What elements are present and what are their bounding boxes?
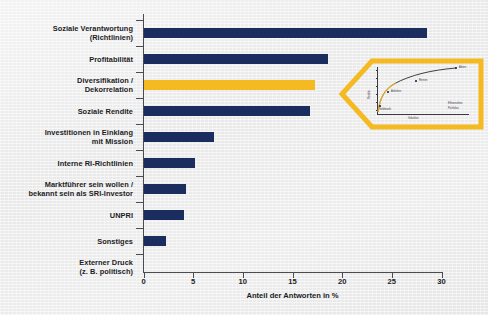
y-label-sonstiges: Sonstiges: [97, 237, 133, 246]
y-axis-tick: [136, 176, 143, 177]
y-axis-tick: [136, 72, 143, 73]
y-label-externer-druck: Externer Druck (z. B. politisch): [79, 258, 133, 277]
y-axis-tick: [136, 98, 143, 99]
inset-legend-portfolios: Portfolios: [448, 107, 459, 110]
inset-label-renten: Renten: [419, 79, 427, 82]
bar-investitionen-mission: [144, 132, 215, 142]
y-label-diversifikation: Diversifikation / Dekorrelation: [77, 76, 133, 95]
y-label-investitionen-mission: Investitionen in Einklang mit Mission: [45, 128, 133, 147]
x-tick-label-20: 20: [327, 277, 357, 286]
bar-soziale-rendite: [144, 106, 311, 116]
inset-point-aktien: [455, 67, 457, 69]
inset-thumbnail-chart: Aktien Renten Anleihen Geldmarkt Effizie…: [360, 64, 476, 124]
bar-marktfuehrer: [144, 184, 187, 194]
inset-x-axis-title: Volatilität: [408, 117, 418, 120]
bar-soziale-verantwortung: [144, 28, 427, 38]
y-axis-tick: [136, 254, 143, 255]
x-tick-label-10: 10: [228, 277, 258, 286]
y-axis-line: [143, 14, 144, 272]
y-label-interne-ri-richtlinien: Interne RI-Richtlinien: [58, 159, 133, 168]
y-label-unpri: UNPRI: [110, 211, 133, 220]
bar-profitabilitaet: [144, 54, 329, 64]
y-axis-tick: [136, 20, 143, 21]
inset-risk-return-callout: Aktien Renten Anleihen Geldmarkt Effizie…: [336, 58, 484, 130]
y-label-marktfuehrer: Marktführer sein wollen / bekannt sein a…: [28, 180, 133, 199]
y-axis-tick: [136, 228, 143, 229]
y-axis-tick: [136, 124, 143, 125]
x-tick-label-25: 25: [377, 277, 407, 286]
x-axis-title: Anteil der Antworten in %: [143, 291, 442, 300]
bar-sonstiges: [144, 236, 167, 246]
y-axis-tick: [136, 150, 143, 151]
inset-legend-effizienzlinie: Effizienzlinie: [448, 102, 462, 105]
inset-point-renten: [415, 80, 417, 82]
inset-point-anleihen: [387, 91, 389, 93]
bar-interne-ri-richtlinien: [144, 158, 196, 168]
inset-y-axis-title: Rendite: [368, 90, 371, 99]
inset-label-anleihen: Anleihen: [391, 90, 401, 93]
inset-efficient-frontier: [360, 64, 476, 124]
y-axis-tick: [136, 46, 143, 47]
x-tick-label-30: 30: [427, 277, 457, 286]
x-tick-label-0: 0: [129, 277, 159, 286]
y-label-soziale-verantwortung: Soziale Verantwortung (Richtlinien): [53, 24, 133, 43]
inset-label-geldmarkt: Geldmarkt: [379, 108, 391, 111]
y-axis-tick: [136, 202, 143, 203]
x-tick-label-5: 5: [178, 277, 208, 286]
x-tick-label-15: 15: [278, 277, 308, 286]
inset-point-geldmarkt: [379, 105, 381, 107]
bar-unpri: [144, 210, 185, 220]
y-label-soziale-rendite: Soziale Rendite: [78, 107, 133, 116]
bar-diversifikation-dekorrelation: [144, 80, 316, 90]
horizontal-bar-chart: Soziale Verantwortung (Richtlinien) Prof…: [0, 0, 488, 315]
inset-label-aktien: Aktien: [459, 66, 466, 69]
y-label-profitabilitaet: Profitabilität: [89, 55, 133, 64]
